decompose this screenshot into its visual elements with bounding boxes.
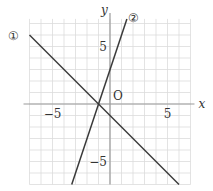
series-label-1: ① — [8, 29, 19, 43]
x-tick-label: −5 — [44, 107, 62, 121]
line-chart: xyO−555−5①② — [0, 0, 213, 191]
y-tick-label: 5 — [99, 40, 107, 54]
y-axis-label: y — [100, 3, 108, 17]
x-tick-label: 5 — [164, 107, 172, 121]
origin-label: O — [113, 89, 123, 103]
y-tick-label: −5 — [89, 155, 107, 169]
series-label-2: ② — [128, 11, 139, 25]
x-axis-label: x — [199, 97, 206, 111]
